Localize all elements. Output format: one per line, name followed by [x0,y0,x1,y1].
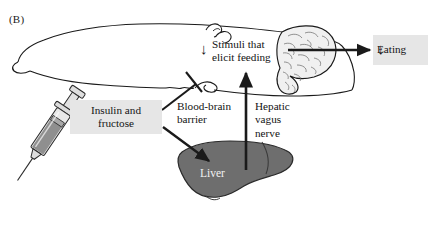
occiput-outline [342,46,354,90]
stimuli-line-1: Stimuli that [212,38,265,50]
hvn-line-1: Hepatic [255,100,290,112]
label-liver: Liver [200,167,225,179]
syringe-needle [18,158,33,180]
label-blood-brain-barrier: Blood-brain barrier [177,100,247,127]
nose-outline [13,62,30,73]
callout-insulin-and-fructose: Insulin and fructose [70,100,162,134]
insulin-callout-text: Insulin and fructose [91,104,141,130]
bbb-line-2: barrier [177,113,207,125]
insulin-line-2: fructose [98,117,134,129]
hvn-line-2: vagus [255,113,281,125]
hvn-line-3: nerve [255,127,280,139]
decrease-arrow-icon-stimuli: ↓ [200,42,208,57]
stimuli-line-2: elicit feeding [212,51,271,63]
label-hepatic-vagus-nerve: Hepatic vagus nerve [255,100,307,140]
jaw-outline [30,71,166,88]
syringe-illustration [8,83,89,188]
bbb-line-1: Blood-brain [177,100,231,112]
figure-panel-b: (B) [0,0,442,232]
insulin-line-1: Insulin and [91,104,141,116]
decrease-arrow-icon-eating: ↓ [377,42,385,57]
label-stimuli-that-elicit-feeding: Stimuli that elicit feeding [212,38,298,65]
